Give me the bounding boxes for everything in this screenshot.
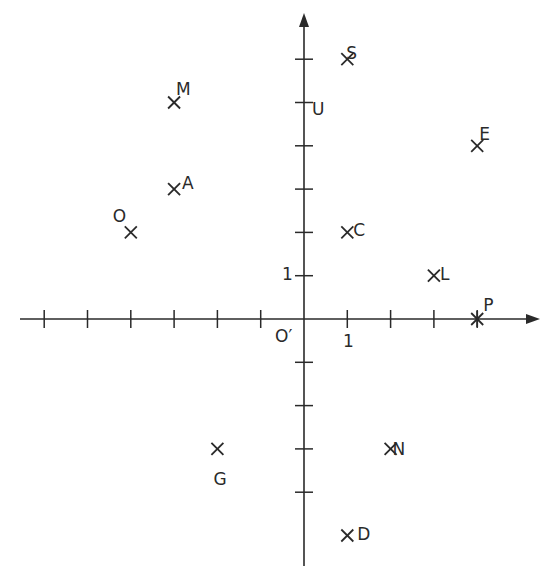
point-s: S bbox=[341, 43, 357, 65]
point-label: G bbox=[213, 469, 226, 489]
x-axis-arrow-icon bbox=[526, 314, 540, 324]
points: SUMEAOCLPGND bbox=[113, 43, 494, 543]
point-m: M bbox=[168, 79, 191, 109]
point-label: E bbox=[479, 124, 490, 144]
x-unit-label: 1 bbox=[343, 331, 354, 351]
point-label: M bbox=[176, 79, 191, 99]
point-g: G bbox=[211, 443, 226, 489]
point-label: P bbox=[483, 295, 493, 315]
point-label: A bbox=[182, 173, 194, 193]
point-label: N bbox=[393, 439, 406, 459]
point-c: C bbox=[341, 220, 365, 240]
point-u: U bbox=[312, 99, 324, 119]
point-label: C bbox=[353, 220, 365, 240]
point-label: S bbox=[346, 43, 357, 63]
y-axis-arrow-icon bbox=[299, 13, 309, 27]
point-label: O bbox=[113, 206, 126, 226]
point-o: O bbox=[113, 206, 137, 238]
point-l: L bbox=[428, 264, 450, 284]
point-e: E bbox=[471, 124, 490, 152]
point-label: U bbox=[312, 99, 324, 119]
point-n: N bbox=[385, 439, 406, 459]
point-p: P bbox=[471, 295, 493, 327]
coordinate-grid: SUMEAOCLPGND O′ 1 1 bbox=[0, 0, 546, 583]
point-label: D bbox=[357, 524, 370, 544]
point-d: D bbox=[341, 524, 370, 544]
point-label: L bbox=[440, 264, 450, 284]
y-unit-label: 1 bbox=[282, 264, 293, 284]
origin-label: O′ bbox=[275, 326, 292, 346]
point-a: A bbox=[168, 173, 194, 195]
